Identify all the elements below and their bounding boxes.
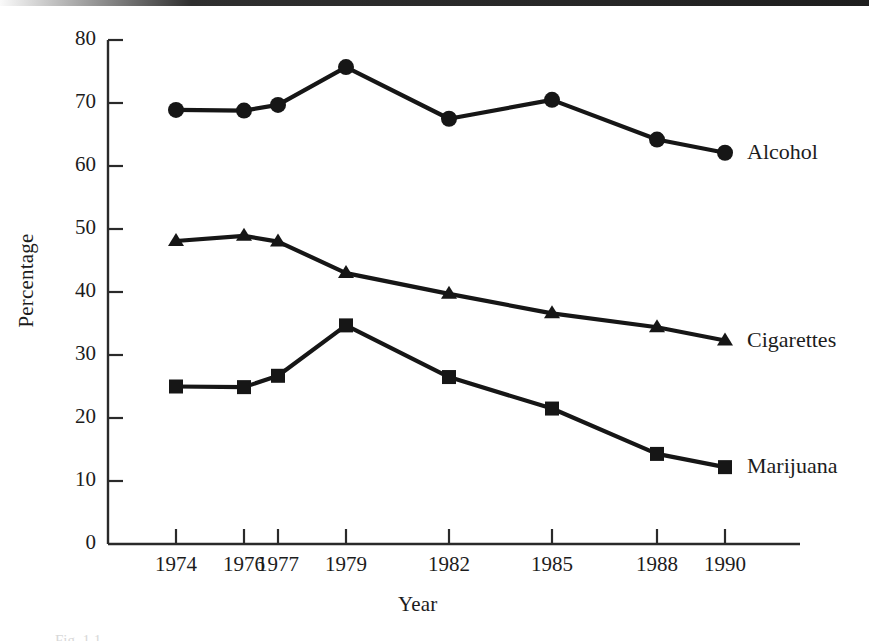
data-point-circle [168, 102, 184, 118]
x-axis-title: Year [398, 592, 438, 617]
y-tick-label: 0 [50, 530, 96, 555]
series-alcohol [168, 59, 733, 161]
series-label-marijuana: Marijuana [747, 453, 837, 479]
series-cigarettes [168, 228, 733, 346]
data-point-square [271, 369, 285, 383]
data-point-circle [270, 97, 286, 113]
y-tick-label: 60 [50, 152, 96, 177]
x-tick-label: 1982 [416, 552, 482, 577]
y-tick-label: 40 [50, 278, 96, 303]
y-axis-title: Percentage [14, 221, 39, 341]
y-tick-label: 20 [50, 404, 96, 429]
x-tick-label: 1985 [519, 552, 585, 577]
series-line-cigarettes [176, 236, 725, 341]
series-line-marijuana [176, 325, 725, 467]
data-point-square [169, 380, 183, 394]
data-point-circle [544, 92, 560, 108]
data-point-circle [236, 103, 252, 119]
series-marijuana [169, 318, 732, 474]
x-tick-label: 1979 [313, 552, 379, 577]
x-tick-label: 1990 [692, 552, 758, 577]
y-tick-label: 10 [50, 467, 96, 492]
data-point-circle [441, 111, 457, 127]
series-label-cigarettes: Cigarettes [747, 327, 836, 353]
data-point-square [442, 370, 456, 384]
data-point-circle [649, 132, 665, 148]
y-tick-label: 50 [50, 215, 96, 240]
x-tick-label: 1974 [143, 552, 209, 577]
data-point-square [237, 380, 251, 394]
y-tick-label: 70 [50, 89, 96, 114]
x-tick-label: 1988 [624, 552, 690, 577]
y-tick-label: 30 [50, 341, 96, 366]
data-point-circle [717, 145, 733, 161]
data-point-square [718, 460, 732, 474]
data-point-square [545, 402, 559, 416]
line-chart-plot [0, 0, 869, 641]
figure-panel: Percentage Year 01020304050607080 197419… [0, 0, 869, 641]
caption-fragment: Fig. 1.1 [55, 632, 355, 641]
x-tick-label: 1977 [245, 552, 311, 577]
data-point-circle [338, 59, 354, 75]
data-point-square [650, 447, 664, 461]
series-line-alcohol [176, 67, 725, 153]
data-point-square [339, 318, 353, 332]
y-tick-label: 80 [50, 26, 96, 51]
series-label-alcohol: Alcohol [747, 139, 818, 165]
